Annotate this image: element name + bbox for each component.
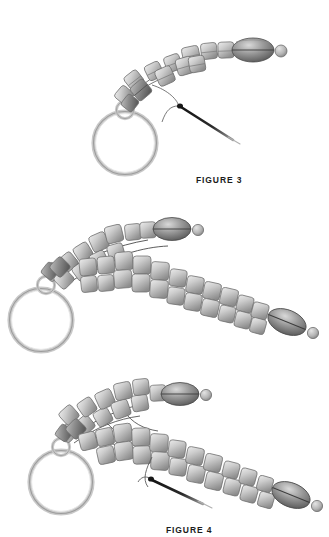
small-round-bead [275,45,287,57]
oval-clasp-bead [232,38,274,62]
small-round-bead-upper [192,224,203,235]
large-ring [94,112,157,175]
beading-needle[interactable] [177,103,240,144]
figure-4-illustration [0,195,329,365]
figure-3-panel: FIGURE 3 [0,0,329,195]
figure-5-illustration [0,365,329,537]
oval-clasp-bead-lower [264,303,310,340]
oval-clasp-bead-upper [161,383,199,406]
cube-bead-row-lower [78,423,276,509]
figure-3-illustration [0,0,329,195]
large-ring [10,289,73,352]
figure-4-panel: FIGURE 4 [0,195,329,365]
large-ring [30,451,93,514]
oval-clasp-bead-upper [153,218,191,241]
figure-3-caption: FIGURE 3 [196,175,242,185]
oval-clasp-bead-lower [268,476,314,513]
figure-5-panel: FIGURE 5 [0,365,329,537]
small-round-bead-lower [307,327,318,338]
working-thread [152,85,179,122]
cube-bead-row-lower [79,251,270,335]
small-round-bead-upper [200,389,211,400]
small-round-bead-lower [311,500,322,511]
